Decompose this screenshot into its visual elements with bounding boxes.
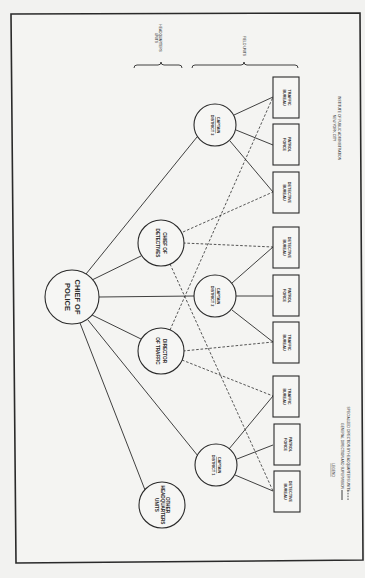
captain-district-3-title: CAPTAIN: [216, 117, 220, 134]
d2-detective-bureau-line2: BUREAU: [282, 239, 286, 256]
other-hq-units-label-line2: HEADQUARTERS: [160, 486, 165, 525]
credit-line1: INSTITUTE OF PUBLIC ADMINISTRATION: [337, 96, 341, 161]
d3-patrol-force-line1: PATROL: [287, 137, 291, 153]
box-d1-detective-bureau: DETECTIVE BUREAU: [274, 471, 300, 512]
section-label-headquarters-line1: HEADQUARTERS: [158, 24, 162, 52]
legend-dashed-label: SPECIALIZED DIRECTION BY HEADQUARTERS UN…: [346, 407, 350, 493]
box-d1-patrol-force: PATROL FORCE: [274, 424, 300, 465]
d3-traffic-bureau-line2: BUREAU: [282, 89, 286, 106]
box-d2-patrol-force: PATROL FORCE: [273, 275, 299, 316]
node-chief-of-police: CHIEF OF POLICE: [45, 270, 99, 324]
d1-detective-bureau-line1: DETECTIVE: [288, 481, 292, 503]
d2-detective-bureau-line1: DETECTIVE: [287, 237, 291, 259]
legend-title: LEGEND: [331, 463, 335, 477]
d3-detective-bureau-line1: DETECTIVE: [287, 182, 291, 204]
captain-district-1-title: CAPTAIN: [217, 457, 221, 474]
d3-detective-bureau-line2: BUREAU: [282, 184, 286, 201]
box-d3-patrol-force: PATROL FORCE: [273, 124, 299, 165]
captain-district-3-label: DISTRICT 3: [210, 115, 214, 136]
d1-detective-bureau-line2: BUREAU: [283, 483, 287, 500]
box-d1-traffic-bureau: TRAFFIC BUREAU: [273, 376, 299, 417]
box-d3-detective-bureau: DETECTIVE BUREAU: [273, 172, 299, 213]
d2-traffic-bureau-line1: TRAFFIC: [287, 334, 291, 350]
d1-patrol-force-line1: PATROL: [288, 437, 292, 453]
node-other-hq-units: OTHER HEADQUARTERS UNITS: [139, 482, 185, 528]
node-chief-of-detectives: CHIEF OF DETECTIVES: [138, 220, 184, 266]
captain-district-1-circle: [195, 444, 237, 486]
d1-traffic-bureau-line1: TRAFFIC: [287, 388, 291, 404]
d2-patrol-force-line1: PATROL: [287, 288, 291, 304]
d1-traffic-bureau-line2: BUREAU: [282, 388, 286, 405]
chief-of-police-label-line1: CHIEF OF: [73, 280, 82, 315]
chief-of-detectives-label-line2: DETECTIVES: [155, 229, 160, 258]
captain-district-3-circle: [194, 104, 236, 146]
d3-traffic-bureau-line1: TRAFFIC: [287, 89, 291, 105]
box-d3-traffic-bureau: TRAFFIC BUREAU: [273, 77, 299, 118]
captain-district-1-label: DISTRICT 1: [211, 455, 215, 476]
captain-district-2-title: CAPTAIN: [216, 288, 220, 305]
d2-traffic-bureau-line2: BUREAU: [282, 334, 286, 351]
d3-patrol-force-line2: FORCE: [282, 138, 286, 152]
org-chart-canvas: HEADQUARTERS UNITS FIELD UNITS CHIEF OF …: [0, 0, 365, 578]
other-hq-units-label-line1: OTHER: [165, 497, 170, 514]
director-of-traffic-label-line2: OF TRAFFIC: [155, 337, 160, 365]
node-captain-district-3: CAPTAIN DISTRICT 3: [194, 104, 236, 146]
section-label-headquarters-line2: UNITS: [154, 33, 158, 44]
legend-solid-label: GENERAL DIRECTION AND SUPERVISION: [340, 423, 344, 489]
other-hq-units-label-line3: UNITS: [154, 498, 159, 512]
node-captain-district-2: CAPTAIN DISTRICT 2: [194, 275, 236, 317]
captain-district-2-circle: [194, 275, 236, 317]
credit-line2: NEW YORK CITY: [332, 115, 336, 142]
d1-patrol-force-line2: FORCE: [283, 438, 287, 452]
box-d2-detective-bureau: DETECTIVE BUREAU: [273, 227, 299, 268]
section-label-field-units: FIELD UNITS: [242, 36, 246, 57]
box-d2-traffic-bureau: TRAFFIC BUREAU: [273, 322, 299, 363]
chief-of-detectives-label-line1: CHIEF OF: [162, 232, 167, 254]
chief-of-police-label-line2: POLICE: [63, 283, 72, 311]
captain-district-2-label: DISTRICT 2: [210, 286, 214, 307]
node-director-of-traffic: DIRECTOR OF TRAFFIC: [138, 328, 184, 374]
d2-patrol-force-line2: FORCE: [282, 289, 286, 303]
node-captain-district-1: CAPTAIN DISTRICT 1: [195, 444, 237, 486]
director-of-traffic-label-line1: DIRECTOR: [162, 339, 167, 364]
